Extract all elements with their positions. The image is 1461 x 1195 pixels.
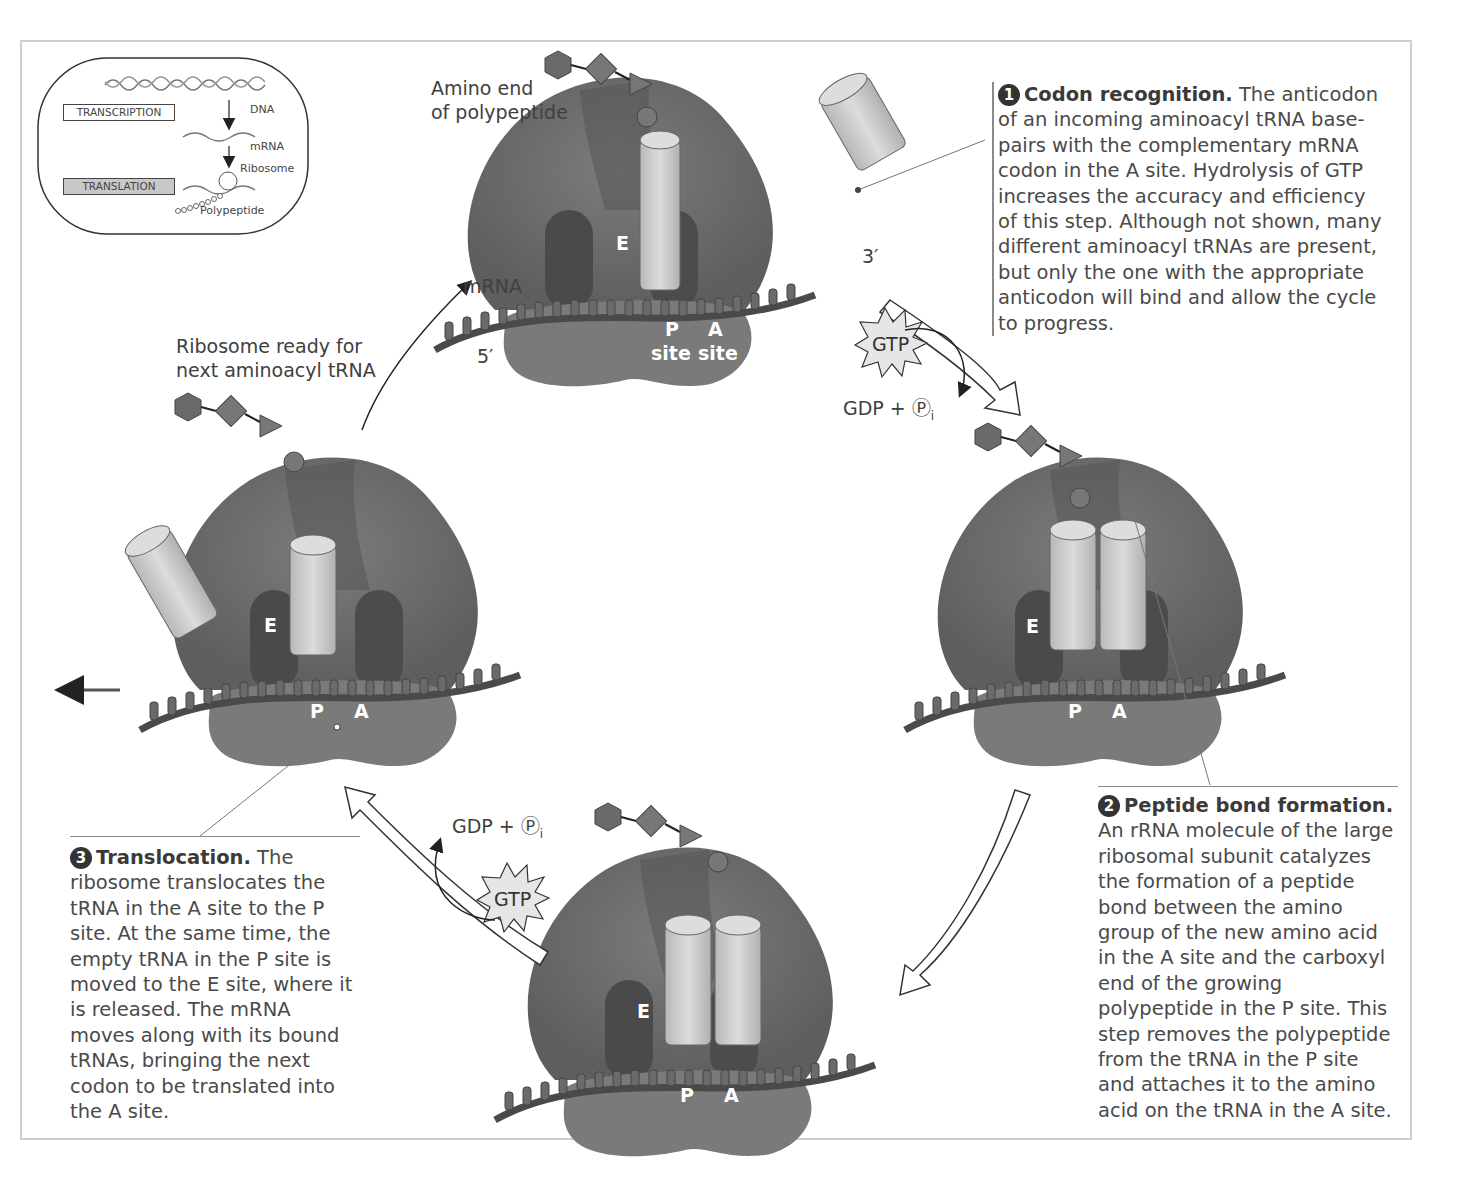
step-2-number: 2: [1098, 795, 1120, 817]
step-1-body: The anticodon of an incoming aminoacyl t…: [998, 83, 1381, 335]
three-prime-label: 3′: [862, 245, 878, 268]
top-a-site-word: site: [698, 342, 738, 364]
right-a-site: A: [1112, 700, 1127, 722]
step-1-number: 1: [998, 84, 1020, 106]
right-e-site: E: [1026, 615, 1039, 637]
top-p-site-word: site: [651, 342, 691, 364]
left-e-site: E: [264, 614, 277, 636]
step-3-body: The ribosome translocates the tRNA in th…: [70, 846, 352, 1123]
ready-label-1: Ribosome ready for: [176, 335, 362, 358]
gdp-pi-label-top: GDP + Ⓟi: [843, 397, 934, 428]
step-2-body: An rRNA molecule of the large ribosomal …: [1098, 819, 1393, 1121]
amino-end-label-2: of polypeptide: [431, 101, 568, 124]
ready-arrow: [362, 282, 470, 430]
bottom-e-site: E: [637, 1000, 650, 1022]
svg-text:GTP: GTP: [494, 888, 531, 910]
top-a-site: A: [708, 318, 723, 340]
mrna-label: mRNA: [463, 275, 522, 298]
step-3-title: Translocation.: [96, 846, 251, 869]
top-e-site: E: [616, 232, 629, 254]
step-1-codon-recognition: 1Codon recognition. The anticodon of an …: [992, 82, 1388, 336]
step-2-title: Peptide bond formation.: [1124, 794, 1393, 817]
step-3-translocation: 3Translocation. The ribosome translocate…: [70, 836, 360, 1124]
transcription-box: TRANSCRIPTION: [63, 104, 175, 121]
amino-end-label-1: Amino end: [431, 77, 533, 100]
translation-box: TRANSLATION: [63, 178, 175, 195]
step-3-number: 3: [70, 847, 92, 869]
bottom-p-site: P: [680, 1084, 694, 1106]
five-prime-label: 5′: [477, 345, 493, 368]
gdp-pi-label-bottom: GDP + Ⓟi: [452, 815, 543, 846]
inset-polypeptide-label: Polypeptide: [200, 204, 264, 217]
bottom-a-site: A: [724, 1084, 739, 1106]
ready-label-2: next aminoacyl tRNA: [176, 359, 376, 382]
left-p-site: P: [310, 700, 324, 722]
inset-dna-label: DNA: [250, 103, 274, 116]
svg-text:GTP: GTP: [872, 333, 909, 355]
inset-ribosome-label: Ribosome: [240, 162, 294, 175]
top-p-site: P: [665, 318, 679, 340]
inset-mrna-label: mRNA: [250, 140, 284, 153]
step-1-title: Codon recognition.: [1024, 83, 1233, 106]
right-p-site: P: [1068, 700, 1082, 722]
step-2-peptide-bond: 2Peptide bond formation. An rRNA molecul…: [1098, 786, 1398, 1123]
left-a-site: A: [354, 700, 369, 722]
